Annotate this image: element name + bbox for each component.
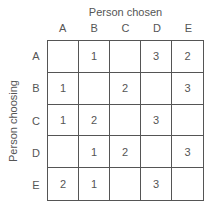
matrix-cell: 3 (172, 136, 203, 168)
row-header: A (28, 40, 44, 72)
matrix-cell: 1 (48, 105, 79, 137)
matrix-cell (48, 41, 79, 73)
matrix-cell (172, 168, 203, 200)
matrix-cell: 1 (48, 73, 79, 105)
matrix-cell (110, 105, 141, 137)
matrix-cell (141, 136, 172, 168)
row-header: C (28, 104, 44, 136)
matrix-cell (110, 41, 141, 73)
matrix-cell: 2 (48, 168, 79, 200)
row-header: B (28, 72, 44, 104)
matrix-cell (48, 136, 79, 168)
matrix-cell: 3 (141, 41, 172, 73)
matrix-cell: 2 (79, 105, 110, 137)
matrix-cell (141, 73, 172, 105)
matrix-cell: 2 (110, 136, 141, 168)
matrix-cell: 3 (172, 73, 203, 105)
matrix-cell: 1 (79, 168, 110, 200)
matrix-cell (172, 105, 203, 137)
matrix-cell (79, 73, 110, 105)
column-header: D (141, 22, 172, 34)
column-header: E (173, 22, 204, 34)
row-axis-title-container: Person choosing (5, 40, 21, 201)
sociomatrix-grid: 1 3 2 1 2 3 1 2 3 1 2 3 2 1 3 (47, 40, 204, 201)
row-axis-title: Person choosing (7, 80, 19, 162)
column-axis-title: Person chosen (47, 6, 204, 18)
row-header: D (28, 137, 44, 169)
matrix-cell: 1 (79, 41, 110, 73)
column-header: C (110, 22, 141, 34)
matrix-cell: 1 (79, 136, 110, 168)
column-header: A (47, 22, 78, 34)
row-header: E (28, 169, 44, 201)
matrix-cell (110, 168, 141, 200)
row-headers: A B C D E (28, 40, 44, 201)
matrix-cell: 3 (141, 105, 172, 137)
matrix-cell: 2 (110, 73, 141, 105)
matrix-cell: 3 (141, 168, 172, 200)
column-headers: A B C D E (47, 22, 204, 34)
matrix-cell: 2 (172, 41, 203, 73)
column-header: B (78, 22, 109, 34)
